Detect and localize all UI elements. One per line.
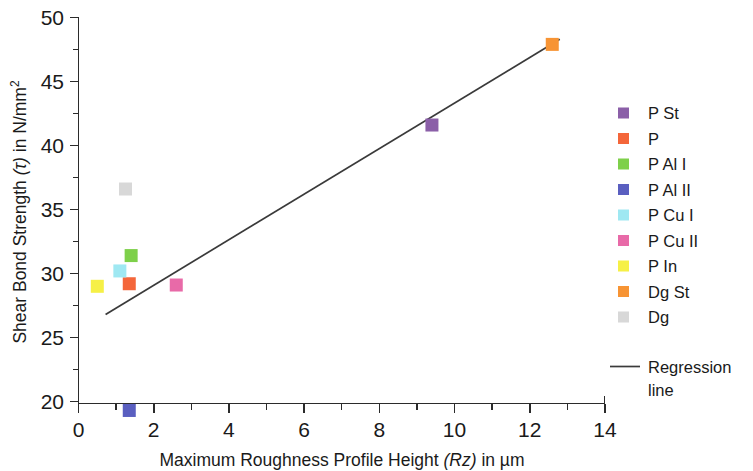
regression-line [106,39,560,314]
legend-label-dg-st: Dg St [648,283,690,301]
data-point-p-st [425,119,438,132]
legend-label-p-cu-i: P Cu I [648,206,694,224]
legend-label-p-in: P In [648,257,677,275]
data-point-p [123,277,136,290]
y-axis-title-superscript: 2 [8,80,22,87]
y-tick-label-45: 45 [41,70,64,93]
legend-swatch-p-cu-i [618,210,629,221]
legend-swatch-p-cu-ii [618,235,629,246]
y-axis-title-post: in N/mm [10,87,30,157]
y-tick-label-35: 35 [41,198,64,221]
legend-label-p-st: P St [648,104,679,122]
legend-swatch-p-st [618,108,629,119]
y-tick-label-50: 50 [41,6,64,29]
legend-swatch-p-al-i [618,159,629,170]
x-axis-minor-ticks [116,404,567,410]
y-axis-tick-labels: 50 45 40 35 30 25 20 [41,6,64,413]
y-tick-label-40: 40 [41,134,64,157]
y-axis-title-symbol: (τ) [10,157,30,175]
legend-label-p-al-i: P Al I [648,155,686,173]
x-axis-title-symbol: (Rz) [443,450,476,470]
legend-swatch-dg [618,312,629,323]
legend-swatch-p-al-ii [618,184,629,195]
legend-label-p: P [648,130,659,148]
y-axis-title-pre: Shear Bond Strength [10,175,30,343]
legend-label-p-cu-ii: P Cu II [648,232,698,250]
data-point-p-al-i [125,249,138,262]
x-tick-label-10: 10 [443,418,466,441]
x-axis-title-pre: Maximum Roughness Profile Height [159,450,443,470]
legend-label-regression-line-1: Regression [648,358,731,376]
x-tick-label-12: 12 [518,418,541,441]
x-axis-title-post: in µm [477,450,525,470]
legend-label-p-al-ii: P Al II [648,181,691,199]
legend-label-regression-line-2: line [648,381,674,399]
data-point-p-in [91,280,104,293]
legend: P StPP Al IP Al IIP Cu IP Cu IIP InDg St… [610,104,731,399]
legend-label-dg: Dg [648,308,669,326]
scatter-chart-figure: 50 45 40 35 30 25 20 [0,0,753,471]
data-point-p-al-ii [123,404,136,417]
x-tick-label-6: 6 [298,418,310,441]
x-tick-label-0: 0 [73,418,85,441]
data-point-group [91,38,559,417]
legend-swatch-p [618,133,629,144]
data-point-dg [119,183,132,196]
data-point-p-cu-ii [170,279,183,292]
chart-svg: 50 45 40 35 30 25 20 [0,0,753,471]
data-point-dg-st [546,38,559,51]
data-point-p-cu-i [113,264,126,277]
y-tick-label-20: 20 [41,390,64,413]
y-tick-label-25: 25 [41,326,64,349]
legend-swatch-p-in [618,261,629,272]
x-tick-label-4: 4 [223,418,235,441]
x-axis-tick-labels: 0 2 4 6 8 10 12 14 [73,418,617,441]
y-axis-title: Shear Bond Strength (τ) in N/mm2 [8,80,30,344]
x-axis-title: Maximum Roughness Profile Height (Rz) in… [159,450,524,470]
legend-swatch-dg-st [618,286,629,297]
y-tick-label-30: 30 [41,262,64,285]
x-tick-label-14: 14 [593,418,617,441]
x-tick-label-2: 2 [148,418,160,441]
x-tick-label-8: 8 [373,418,385,441]
y-axis-major-ticks [70,18,78,402]
